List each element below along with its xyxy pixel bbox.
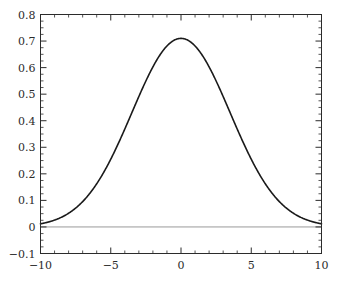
y-tick-label: 0 [29,221,36,234]
chart-canvas: −0.100.10.20.30.40.50.60.70.8 −10−50510 [0,0,342,286]
x-tick-label: 0 [178,259,185,272]
y-tick-label: 0.1 [18,194,36,207]
y-tick-label: 0.8 [18,9,36,22]
y-tick-label: 0.2 [18,168,36,181]
y-tick-label: 0.5 [18,88,36,101]
gaussian-plot-figure: −0.100.10.20.30.40.50.60.70.8 −10−50510 [0,0,342,286]
x-tick-label: 5 [248,259,255,272]
y-tick-label: 0.4 [18,115,36,128]
x-tick-label: −10 [29,259,52,272]
y-tick-label: 0.7 [18,35,36,48]
x-tick-label: −5 [103,259,119,272]
y-tick-label: 0.3 [18,141,36,154]
x-tick-label: 10 [315,259,329,272]
y-tick-label: 0.6 [18,62,36,75]
